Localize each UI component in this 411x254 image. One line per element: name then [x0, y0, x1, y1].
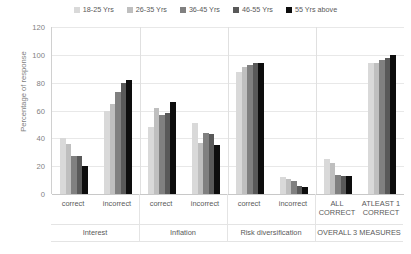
x-axis-tick-label: ALL CORRECT	[315, 196, 359, 222]
legend-item-4[interactable]: 55 Yrs above	[286, 6, 337, 14]
x-axis-tick-label: correct	[51, 196, 95, 222]
bar-group	[228, 27, 272, 194]
group-separator	[228, 27, 229, 194]
legend-item-3[interactable]: 46-55 Yrs	[233, 6, 273, 14]
y-axis-tick-label: 20	[37, 162, 45, 171]
bar-group	[184, 27, 228, 194]
y-axis-tick-label: 100	[32, 50, 45, 59]
bar-group	[360, 27, 404, 194]
bar[interactable]	[214, 145, 220, 194]
bar-group	[96, 27, 140, 194]
x-axis-group-label: Interest	[51, 226, 139, 242]
bar-group	[316, 27, 360, 194]
bar[interactable]	[258, 63, 264, 194]
axis-bottom-border	[51, 241, 403, 242]
bar[interactable]	[346, 176, 352, 194]
bar[interactable]	[82, 166, 88, 194]
legend-item-0[interactable]: 18-25 Yrs	[74, 6, 114, 14]
legend-item-label: 18-25 Yrs	[83, 6, 114, 14]
legend-swatch-icon	[233, 7, 239, 13]
bar-group	[52, 27, 96, 194]
y-axis: Percentage of response 020406080100120	[0, 27, 51, 195]
x-axis-tick-label: correct	[139, 196, 183, 222]
legend-swatch-icon	[74, 7, 80, 13]
bar[interactable]	[302, 187, 308, 194]
bar-chart: 18-25 Yrs26-35 Yrs36-45 Yrs46-55 Yrs55 Y…	[0, 0, 411, 254]
group-separator	[140, 27, 141, 194]
legend-swatch-icon	[180, 7, 186, 13]
x-axis-group-label: Risk diversification	[227, 226, 315, 242]
legend-item-label: 26-35 Yrs	[136, 6, 167, 14]
axis-label-divider	[51, 224, 403, 225]
plot-area	[51, 27, 403, 194]
y-axis-title: Percentage of response	[19, 17, 28, 167]
gridline	[52, 194, 404, 195]
x-axis-group-label: OVERALL 3 MEASURES	[315, 226, 403, 242]
axis-group-separator	[227, 194, 228, 242]
legend-item-label: 36-45 Yrs	[189, 6, 220, 14]
bar-group	[140, 27, 184, 194]
legend-swatch-icon	[286, 7, 292, 13]
legend-swatch-icon	[127, 7, 133, 13]
axis-group-separator	[139, 194, 140, 242]
x-axis-tick-label: correct	[227, 196, 271, 222]
x-axis-tick-label: incorrect	[95, 196, 139, 222]
legend-item-2[interactable]: 36-45 Yrs	[180, 6, 220, 14]
y-axis-tick-label: 60	[37, 106, 45, 115]
bar[interactable]	[126, 80, 132, 194]
legend-item-1[interactable]: 26-35 Yrs	[127, 6, 167, 14]
x-axis-tick-label: ATLEAST 1 CORRECT	[359, 196, 403, 222]
legend-item-label: 55 Yrs above	[295, 6, 337, 14]
bar[interactable]	[170, 102, 176, 194]
group-separator	[316, 27, 317, 194]
bar-group	[272, 27, 316, 194]
x-axis-tick-label: incorrect	[271, 196, 315, 222]
legend-item-label: 46-55 Yrs	[242, 6, 273, 14]
x-axis-tick-label: incorrect	[183, 196, 227, 222]
y-axis-tick-label: 0	[41, 190, 45, 199]
y-axis-tick-label: 40	[37, 134, 45, 143]
y-axis-tick-label: 120	[32, 23, 45, 32]
chart-legend: 18-25 Yrs26-35 Yrs36-45 Yrs46-55 Yrs55 Y…	[0, 6, 411, 14]
axis-group-separator	[315, 194, 316, 242]
x-axis-group-label: Inflation	[139, 226, 227, 242]
bar[interactable]	[390, 55, 396, 194]
y-axis-tick-label: 80	[37, 78, 45, 87]
